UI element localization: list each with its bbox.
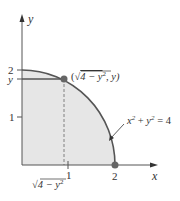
equation-leader-line xyxy=(111,124,124,138)
x-tick-label-1: 1 xyxy=(66,169,72,181)
x-tick-label-2: 2 xyxy=(112,170,118,182)
point-marker xyxy=(61,76,68,83)
quarter-circle-diagram: y x 2 y 1 1 2 (√4 − y2, y) x2 + y2 = 4 √… xyxy=(0,0,180,201)
sqrt-bottom-label: √4 − y2 xyxy=(32,178,64,190)
y-axis-arrow-icon xyxy=(20,14,25,22)
y-axis-label: y xyxy=(27,12,34,26)
point-label: (√4 − y2, y) xyxy=(71,70,120,83)
x-intercept-marker xyxy=(112,162,119,169)
x-axis-arrow-icon xyxy=(150,163,158,168)
shaded-region xyxy=(22,70,115,165)
y-tick-label-1: 1 xyxy=(9,111,15,123)
curve-equation-label: x2 + y2 = 4 xyxy=(126,114,172,126)
y-tick-label-y: y xyxy=(7,73,13,85)
x-axis-label: x xyxy=(151,169,158,183)
